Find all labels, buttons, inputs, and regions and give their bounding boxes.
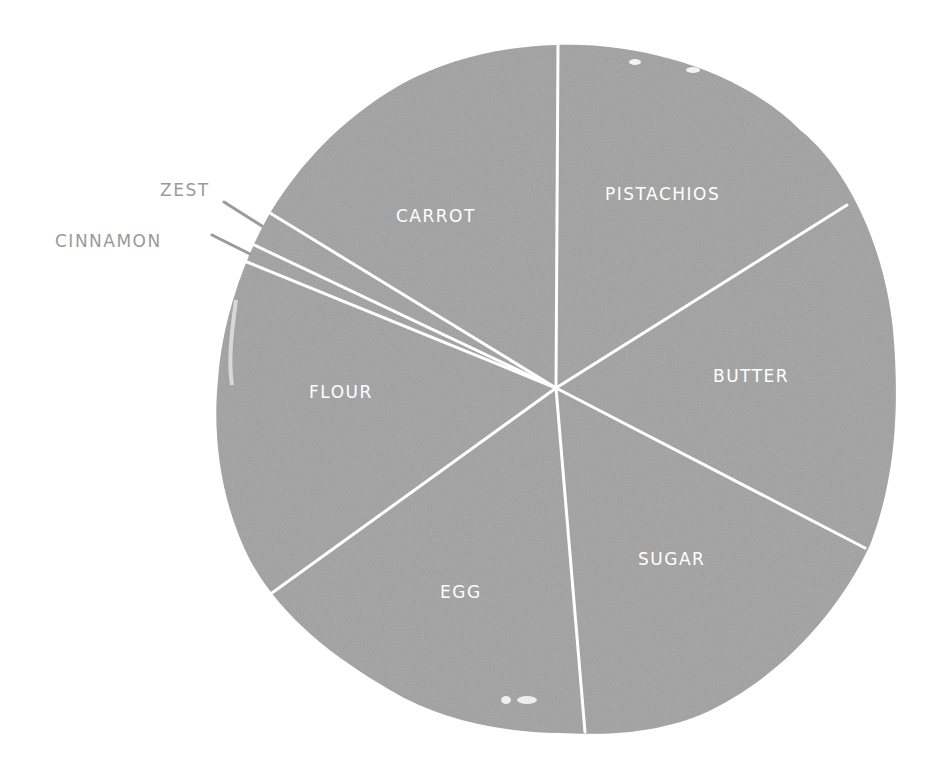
label-pistachios: PISTACHIOS xyxy=(605,184,720,204)
label-cinnamon: CINNAMON xyxy=(55,231,162,251)
paint-speckle xyxy=(629,59,641,65)
divider-carrot-pistachios xyxy=(556,45,558,388)
label-butter: BUTTER xyxy=(713,366,789,386)
label-egg: EGG xyxy=(440,582,482,602)
label-flour: FLOUR xyxy=(309,382,373,402)
paint-speckle xyxy=(686,67,700,73)
paint-speckle xyxy=(517,696,537,704)
pointer-zest xyxy=(224,202,262,226)
label-zest: ZEST xyxy=(160,180,210,200)
paint-speckle xyxy=(501,696,511,704)
label-sugar: SUGAR xyxy=(638,549,705,569)
label-carrot: CARROT xyxy=(396,206,476,226)
pie-chart: PISTACHIOS CARROT BUTTER FLOUR SUGAR EGG… xyxy=(0,0,944,783)
pointer-cinnamon xyxy=(212,235,250,254)
